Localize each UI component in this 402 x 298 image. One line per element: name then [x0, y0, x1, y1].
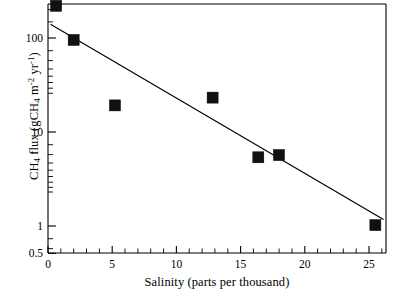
y-tick-label: 0.5	[29, 247, 44, 259]
data-point	[109, 100, 120, 111]
y-axis-title-sub2: 4	[32, 98, 42, 102]
x-tick-label: 15	[235, 258, 247, 270]
data-point	[207, 92, 218, 103]
y-axis-title-sup2: -1	[26, 56, 36, 64]
y-major-ticks	[48, 38, 56, 253]
y-tick-label: 1	[37, 220, 43, 232]
y-minor-ticks	[48, 10, 53, 249]
axis-frame	[48, 4, 386, 253]
x-minor-ticks	[61, 249, 382, 254]
y-axis-title-lead: CH	[27, 162, 41, 180]
y-axis-title-mid3: yr	[27, 64, 41, 78]
regression-line	[51, 24, 384, 219]
data-markers	[51, 0, 381, 230]
data-point	[273, 150, 284, 161]
x-tick-label: 0	[45, 258, 51, 270]
x-tick-label: 10	[171, 258, 183, 270]
y-axis-title: CH4 flux (gCH4 m-2 yr-1)	[26, 16, 42, 216]
data-point	[370, 220, 381, 231]
x-tick-label: 25	[363, 258, 375, 270]
y-axis-title-sup1: -2	[26, 78, 36, 86]
data-point	[51, 0, 62, 11]
y-axis-title-tail: )	[27, 52, 41, 56]
x-tick-label: 20	[299, 258, 311, 270]
chart-plot-area: 100 10 1 0.5 0 5 10 15 20 25	[0, 0, 402, 298]
chart-figure: 100 10 1 0.5 0 5 10 15 20 25 CH4 flux (g…	[0, 0, 402, 298]
x-major-ticks	[48, 246, 369, 253]
x-tick-labels: 0 5 10 15 20 25	[45, 258, 375, 270]
y-axis-title-mid: flux (gCH	[27, 103, 41, 158]
y-axis-title-mid2: m	[27, 85, 41, 98]
data-point	[253, 152, 264, 163]
x-axis-title: Salinity (parts per thousand)	[48, 275, 386, 290]
x-tick-label: 5	[109, 258, 115, 270]
y-axis-title-sub1: 4	[32, 158, 42, 162]
data-point	[68, 34, 79, 45]
